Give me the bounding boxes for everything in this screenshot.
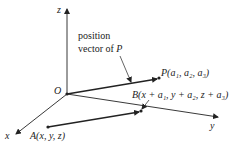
annotation-leader <box>120 56 131 82</box>
point-b-label: B(x + a₁, y + a₂, z + a₃) <box>132 90 228 100</box>
vector-diagram: z y x O position vector of P P(a₁, a₂, a… <box>0 0 243 148</box>
point-a <box>46 125 49 128</box>
y-axis-label: y <box>210 121 214 131</box>
annotation-line2: vector of P <box>78 44 122 54</box>
origin-label: O <box>54 86 61 96</box>
b-leader <box>142 100 149 109</box>
vector-ab <box>48 112 139 127</box>
point-p-label: P(a₁, a₂, a₃) <box>161 68 209 78</box>
x-axis-label: x <box>5 131 9 141</box>
annotation-var: P <box>116 43 122 54</box>
z-axis-label: z <box>57 5 61 15</box>
point-a-label: A(x, y, z) <box>30 131 65 141</box>
x-axis <box>16 94 67 134</box>
point-b <box>139 109 142 112</box>
origin-point <box>65 92 68 95</box>
annotation-prefix: vector of <box>78 43 116 54</box>
annotation-line1: position <box>78 31 110 41</box>
